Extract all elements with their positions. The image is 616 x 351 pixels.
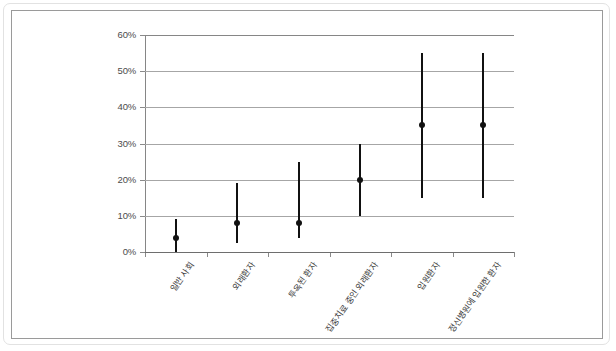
data-point <box>173 235 179 241</box>
x-axis-tick <box>514 252 515 257</box>
y-axis-label: 20% <box>96 174 136 185</box>
x-axis-category-label: 입원환자 <box>414 259 442 292</box>
gridline <box>145 180 514 181</box>
gridline <box>145 216 514 217</box>
y-axis-label: 10% <box>96 210 136 221</box>
data-point <box>296 220 302 226</box>
y-axis-label: 30% <box>96 138 136 149</box>
range-bar <box>236 183 238 243</box>
x-axis-line <box>145 252 514 253</box>
gridline <box>145 107 514 108</box>
range-bar <box>298 162 300 238</box>
x-axis-category-label: 일반 사회 <box>166 259 195 294</box>
x-axis-category-label: 정신병원에 입원한 환자 <box>445 259 503 334</box>
y-axis-tick <box>140 35 145 36</box>
y-axis-label: 50% <box>96 65 136 76</box>
y-axis-label: 0% <box>96 246 136 257</box>
chart-frame: 0%10%20%30%40%50%60%일반 사회외래환자투옥된 환자집중치료 … <box>11 10 603 339</box>
x-axis-category-label: 집중치료 중인 외래환자 <box>322 259 380 334</box>
y-axis-label: 60% <box>96 29 136 40</box>
gridline <box>145 71 514 72</box>
x-axis-category-label: 투옥된 환자 <box>285 259 319 300</box>
y-axis-tick <box>140 107 145 108</box>
gridline <box>145 144 514 145</box>
chart-screenshot: 0%10%20%30%40%50%60%일반 사회외래환자투옥된 환자집중치료 … <box>0 0 616 351</box>
y-axis-tick <box>140 180 145 181</box>
x-axis-category-label: 외래환자 <box>229 259 257 292</box>
data-point <box>357 177 363 183</box>
y-axis-tick <box>140 144 145 145</box>
y-axis-label: 40% <box>96 101 136 112</box>
y-axis-tick <box>140 71 145 72</box>
y-axis-tick <box>140 216 145 217</box>
